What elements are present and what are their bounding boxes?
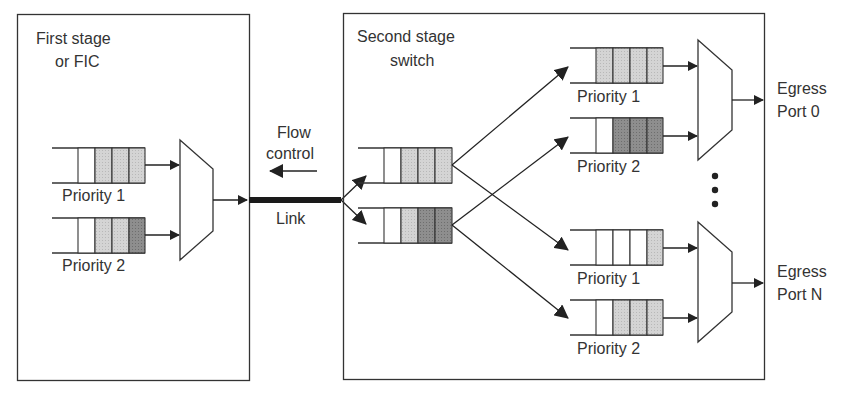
egress-port-0-label-line1: Egress bbox=[777, 80, 827, 97]
first-stage-title-line2: or FIC bbox=[55, 53, 99, 70]
second-stage-input-queue-2 bbox=[358, 208, 452, 243]
link-label: Link bbox=[276, 210, 306, 227]
crossbar-connections bbox=[452, 67, 568, 318]
first-stage-queue-priority-1: Priority 1 bbox=[52, 148, 179, 204]
diagram-canvas: First stage or FIC Priority 1 Priority 2 bbox=[0, 0, 856, 396]
egress-port-0-multiplexer bbox=[698, 40, 732, 160]
output-queue-port0-priority-1: Priority 1 bbox=[570, 48, 697, 105]
output-queue-label: Priority 1 bbox=[577, 88, 640, 105]
egress-group-port-0: Priority 1 Priority 2 Egress Port 0 bbox=[570, 40, 827, 175]
egress-port-n-label-line2: Port N bbox=[777, 286, 822, 303]
output-queue-label: Priority 2 bbox=[577, 158, 640, 175]
output-queue-label: Priority 2 bbox=[577, 340, 640, 357]
output-queue-label: Priority 1 bbox=[577, 270, 640, 287]
first-stage-queue-label-2: Priority 2 bbox=[62, 257, 125, 274]
first-stage-queue-priority-2: Priority 2 bbox=[52, 218, 179, 274]
second-stage-title-line2: switch bbox=[390, 52, 434, 69]
second-stage-box: Second stage switch bbox=[344, 14, 827, 380]
second-stage-input-queue-1 bbox=[358, 148, 452, 183]
first-stage-multiplexer bbox=[180, 140, 213, 260]
ellipsis-dots-icon bbox=[712, 173, 718, 207]
egress-port-n-label-line1: Egress bbox=[777, 263, 827, 280]
first-stage-title-line1: First stage bbox=[36, 30, 111, 47]
flow-control-label-line1: Flow bbox=[277, 124, 311, 141]
egress-port-0-label-line2: Port 0 bbox=[777, 103, 820, 120]
first-stage-box: First stage or FIC Priority 1 Priority 2 bbox=[18, 15, 250, 381]
first-stage-queue-label-1: Priority 1 bbox=[62, 187, 125, 204]
flow-control-label-line2: control bbox=[266, 145, 314, 162]
egress-port-n-multiplexer bbox=[698, 222, 732, 342]
egress-group-port-n: Priority 1 Priority 2 Egress Port N bbox=[570, 222, 827, 357]
output-queue-portn-priority-2: Priority 2 bbox=[570, 300, 697, 357]
output-queue-port0-priority-2: Priority 2 bbox=[570, 118, 697, 175]
output-queue-portn-priority-1: Priority 1 bbox=[570, 230, 697, 287]
second-stage-title-line1: Second stage bbox=[357, 28, 455, 45]
link: Flow control Link bbox=[249, 124, 366, 227]
